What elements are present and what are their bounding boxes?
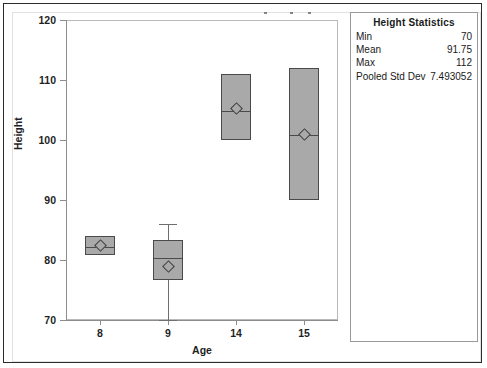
- lower-whisker-cap: [159, 320, 177, 321]
- stats-row-value: 7.493052: [430, 70, 472, 83]
- stats-row-value: 112: [456, 56, 472, 69]
- stats-row-label: Min: [356, 30, 372, 43]
- stats-rows: Min70Mean91.75Max112Pooled Std Dev7.4930…: [356, 30, 472, 83]
- x-tick: [304, 320, 305, 325]
- y-tick: [60, 320, 67, 321]
- height-statistics-panel: Height Statistics Min70Mean91.75Max112Po…: [350, 12, 478, 342]
- stats-row-label: Pooled Std Dev: [356, 70, 426, 83]
- x-tick: [100, 320, 101, 325]
- screenshot-page: Height Age 708090100110120 891415 Height…: [0, 0, 487, 368]
- stats-row-value: 91.75: [447, 43, 472, 56]
- x-axis: [66, 320, 338, 321]
- x-tick-label: 14: [216, 328, 256, 339]
- stats-panel-title: Height Statistics: [356, 17, 472, 28]
- stats-row-label: Mean: [356, 43, 381, 56]
- x-axis-title: Age: [66, 344, 338, 356]
- x-tick-label: 9: [148, 328, 188, 339]
- stats-row: Max112: [356, 56, 472, 69]
- x-tick-label: 15: [284, 328, 324, 339]
- stats-row-value: 70: [461, 30, 472, 43]
- box-plot-group: [10, 10, 338, 320]
- stats-row: Min70: [356, 30, 472, 43]
- x-tick: [236, 320, 237, 325]
- stats-row-label: Max: [356, 56, 375, 69]
- box-plot-chart: Height Age 708090100110120 891415: [10, 10, 345, 356]
- stats-row: Mean91.75: [356, 43, 472, 56]
- x-tick-label: 8: [80, 328, 120, 339]
- stats-row: Pooled Std Dev7.493052: [356, 70, 472, 83]
